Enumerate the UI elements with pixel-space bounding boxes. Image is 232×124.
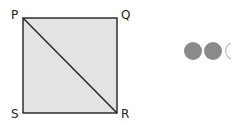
vertex-label-R: R: [121, 107, 129, 121]
dot-outline-3: [226, 43, 232, 60]
dot-filled-1: [184, 42, 202, 60]
vertex-label-Q: Q: [121, 8, 130, 22]
progress-dots: [184, 42, 231, 60]
dot-filled-2: [204, 42, 222, 60]
vertex-label-P: P: [11, 8, 18, 22]
square-diagram: P Q R S: [0, 0, 231, 124]
vertex-label-S: S: [11, 107, 19, 121]
